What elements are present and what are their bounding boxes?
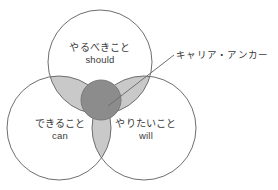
callout-label-career-anchor: キャリア・アンカー [176,47,269,61]
venn-diagram: やるべきこと should できること can やりたいこと will キャリア… [0,0,278,190]
venn-graphic [0,0,278,190]
